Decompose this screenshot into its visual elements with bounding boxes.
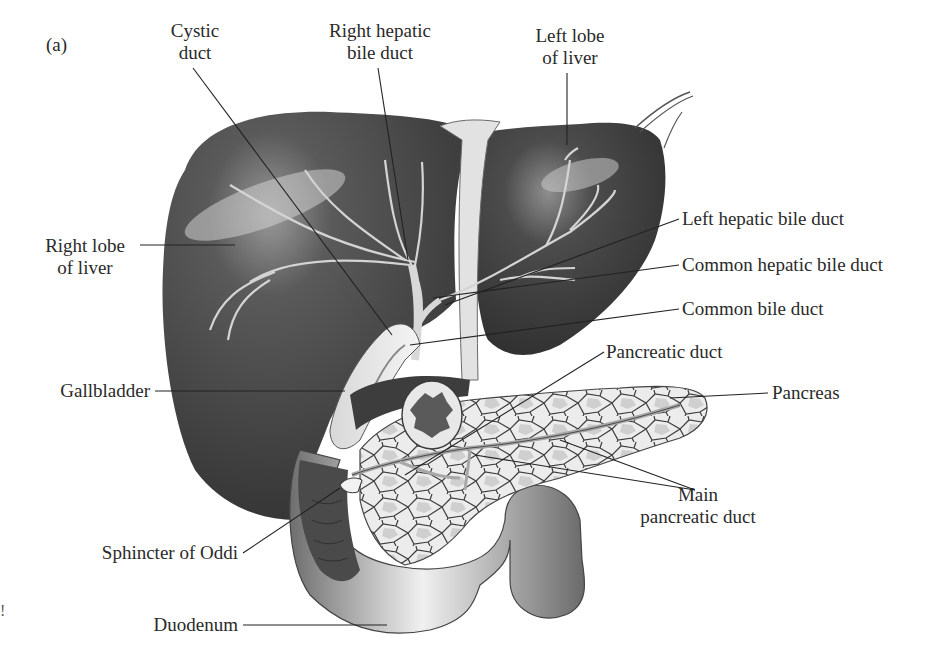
label-sphincter-of-oddi: Sphincter of Oddi	[20, 542, 238, 564]
label-right-hepatic-bile-duct: Right hepatic bile duct	[310, 20, 450, 64]
label-pancreatic-duct: Pancreatic duct	[606, 341, 723, 363]
label-gallbladder: Gallbladder	[10, 380, 150, 402]
liver-biliary-diagram: (a) ! Cystic duct Right hepatic bile duc…	[0, 0, 948, 663]
label-common-bile-duct: Common bile duct	[682, 298, 823, 320]
panel-label: (a)	[46, 34, 67, 56]
label-cystic-duct: Cystic duct	[150, 20, 240, 64]
label-main-pancreatic-duct: Main pancreatic duct	[623, 484, 773, 528]
label-left-lobe-of-liver: Left lobe of liver	[520, 25, 620, 69]
label-left-hepatic-bile-duct: Left hepatic bile duct	[682, 208, 844, 230]
label-common-hepatic-bile-duct: Common hepatic bile duct	[682, 254, 883, 276]
stray-mark: !	[0, 600, 5, 622]
portal-vein-section	[402, 381, 462, 449]
label-right-lobe-of-liver: Right lobe of liver	[30, 235, 140, 279]
label-pancreas: Pancreas	[772, 382, 840, 404]
label-duodenum: Duodenum	[80, 614, 238, 636]
